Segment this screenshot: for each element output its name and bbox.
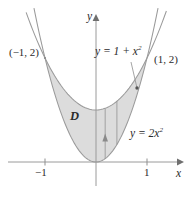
- label-region-d: D: [70, 110, 79, 123]
- label-point-neg1-2: (−1, 2): [9, 47, 39, 58]
- upper-curve-leader-dot: [135, 86, 138, 89]
- label-curve-lower-text: y = 2x: [130, 127, 159, 139]
- plot-svg: [0, 0, 194, 197]
- label-curve-upper-text: y = 1 + x: [95, 45, 138, 57]
- label-axis-x: x: [176, 168, 181, 180]
- label-x-tick-neg1: −1: [35, 167, 47, 178]
- label-curve-upper: y = 1 + x2: [95, 46, 142, 58]
- y-axis-arrowhead: [93, 14, 100, 21]
- label-curve-lower-exponent: 2: [159, 126, 163, 134]
- label-point-1-2: (1, 2): [154, 54, 178, 65]
- figure-canvas: (−1, 2) (1, 2) y = 1 + x2 y = 2x2 D x y …: [0, 0, 194, 197]
- label-x-tick-pos1: 1: [144, 167, 150, 178]
- intersection-dot-left: [44, 57, 46, 59]
- label-axis-y: y: [87, 11, 92, 23]
- label-curve-lower: y = 2x2: [130, 128, 163, 140]
- x-axis-arrowhead: [177, 159, 184, 166]
- label-curve-upper-exponent: 2: [138, 44, 142, 52]
